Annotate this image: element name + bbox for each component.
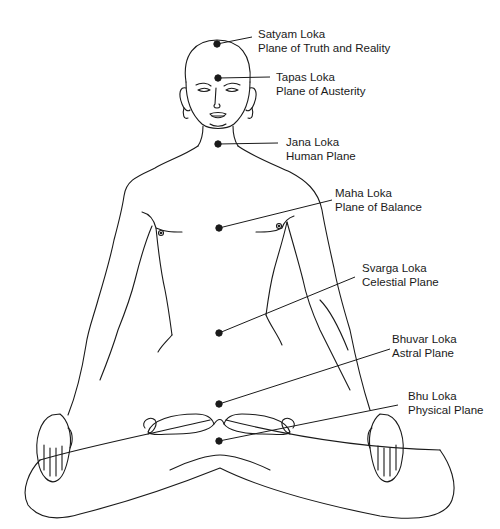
loka-description: Plane of Austerity	[276, 84, 366, 98]
torso	[68, 146, 370, 415]
loka-name: Satyam Loka	[258, 27, 390, 41]
head	[180, 40, 256, 146]
loka-description: Plane of Truth and Reality	[258, 41, 390, 55]
label-satyam-loka: Satyam Loka Plane of Truth and Reality	[258, 27, 390, 55]
label-bhuvar-loka: Bhuvar Loka Astral Plane	[392, 332, 457, 360]
loka-name: Maha Loka	[335, 186, 422, 200]
loka-name: Tapas Loka	[276, 70, 366, 84]
loka-description: Celestial Plane	[362, 275, 439, 289]
label-jana-loka: Jana Loka Human Plane	[286, 135, 356, 163]
loka-description: Plane of Balance	[335, 200, 422, 214]
loka-description: Physical Plane	[408, 403, 483, 417]
loka-name: Bhu Loka	[408, 389, 483, 403]
loka-name: Svarga Loka	[362, 261, 439, 275]
loka-name: Jana Loka	[286, 135, 356, 149]
label-svarga-loka: Svarga Loka Celestial Plane	[362, 261, 439, 289]
label-bhu-loka: Bhu Loka Physical Plane	[408, 389, 483, 417]
loka-description: Human Plane	[286, 149, 356, 163]
hands	[37, 414, 403, 482]
loka-markers	[214, 37, 398, 444]
label-tapas-loka: Tapas Loka Plane of Austerity	[276, 70, 366, 98]
loka-description: Astral Plane	[392, 346, 457, 360]
label-maha-loka: Maha Loka Plane of Balance	[335, 186, 422, 214]
loka-name: Bhuvar Loka	[392, 332, 457, 346]
